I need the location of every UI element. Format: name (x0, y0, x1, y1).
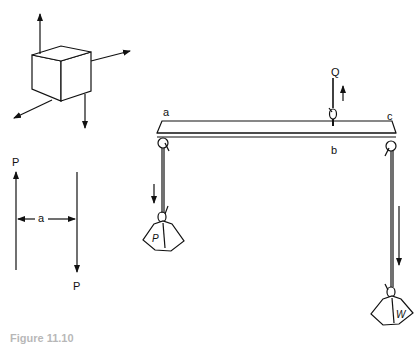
figure-canvas: P P a a b c Q P W (0, 0, 420, 344)
right-weight-label: W (396, 309, 407, 320)
beam-diagram (143, 78, 413, 325)
distance-label: a (38, 212, 45, 224)
right-ring (386, 141, 396, 151)
left-weight-label: P (152, 233, 159, 244)
beam-end-right-label: c (387, 110, 393, 122)
beam (157, 121, 396, 133)
lift-force-label: Q (331, 66, 340, 78)
beam-end-left-label: a (163, 106, 170, 118)
cube-arrow-left (14, 100, 52, 118)
figure-caption: Figure 11.10 (10, 332, 420, 344)
beam-middle-label: b (331, 144, 337, 156)
force-bottom-label: P (73, 280, 80, 292)
cube-arrow-right (91, 51, 130, 61)
cube-diagram (14, 14, 130, 128)
force-top-label: P (12, 156, 19, 168)
cube-front-face (32, 55, 61, 101)
right-weight-hook (387, 287, 395, 297)
couple-diagram (16, 172, 77, 272)
